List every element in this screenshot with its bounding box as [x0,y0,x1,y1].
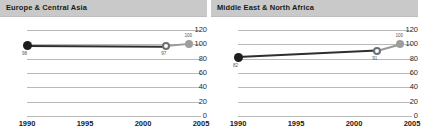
charts-sheet: Europe & Central Asia 020406080100120199… [0,0,421,139]
panel-middle-east-north-africa: Middle East & North Africa 0204060801001… [211,0,418,139]
x-axis-tick-label: 1995 [69,119,101,128]
gridline [27,87,201,88]
series-line-segment [238,50,377,58]
series-line-segment [27,45,166,48]
y-axis-tick-label: 80 [184,55,207,63]
data-point-label: 98 [22,51,27,56]
plot-area: 02040608010012019901995200020058291100 [211,16,418,139]
gridline [27,102,201,103]
panel-header: Europe & Central Asia [0,0,207,17]
x-axis-tick-label: 2000 [127,119,159,128]
y-axis-tick-label: 20 [395,98,418,106]
data-point-marker[interactable] [162,42,170,50]
y-axis-tick-label: 60 [395,69,418,77]
y-axis-tick-label: 80 [395,55,418,63]
gridline [238,44,412,45]
y-axis-tick-label: 40 [184,83,207,91]
gridline [238,87,412,88]
data-point-marker[interactable] [234,53,243,62]
gridline [27,116,201,117]
x-axis-tick-label: 1990 [222,119,254,128]
gridline [27,30,201,31]
panel-europe-central-asia: Europe & Central Asia 020406080100120199… [0,0,207,139]
y-axis-tick-label: 40 [395,83,418,91]
panel-title: Europe & Central Asia [6,3,87,12]
x-axis-tick-label: 2005 [396,119,421,128]
plot-area: 02040608010012019901995200020059897100 [0,16,207,139]
gridline [27,59,201,60]
data-point-label: 91 [372,56,377,61]
x-axis-tick-label: 1990 [11,119,43,128]
data-point-label: 97 [161,51,166,56]
panel-title: Middle East & North Africa [217,3,314,12]
y-axis-tick-label: 60 [184,69,207,77]
panel-header: Middle East & North Africa [211,0,418,17]
gridline [27,73,201,74]
gridline [238,116,412,117]
x-axis-tick-label: 1995 [280,119,312,128]
gridline [238,102,412,103]
data-point-marker[interactable] [373,47,381,55]
gridline [238,73,412,74]
data-point-label: 82 [233,63,238,68]
x-axis-tick-label: 2000 [338,119,370,128]
y-axis-tick-label: 20 [184,98,207,106]
gridline [238,59,412,60]
data-point-marker[interactable] [23,41,32,50]
data-point-label: 100 [184,33,192,38]
gridline [238,30,412,31]
data-point-label: 100 [395,33,403,38]
